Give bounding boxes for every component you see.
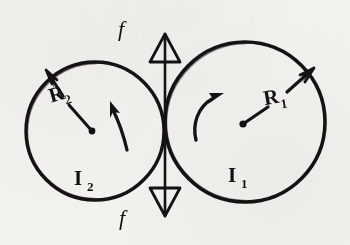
left-radius-label: R 2 <box>46 79 73 112</box>
left-radius-shaft <box>69 105 92 131</box>
right-inertia-label-sub: 1 <box>241 176 248 191</box>
left-inertia-label-main: I <box>74 166 82 190</box>
right-inertia-label: I 1 <box>228 163 248 191</box>
force-label-top: f <box>118 16 127 41</box>
left-disc-circle-wobble <box>27 64 96 199</box>
physics-sketch: f f R 2 R 1 I 2 I 1 <box>0 0 350 245</box>
right-radius-label-main: R <box>262 84 282 110</box>
left-radius-label-sub: 2 <box>63 91 73 107</box>
left-rotation-arc <box>113 110 127 150</box>
right-radius-shaft <box>243 107 268 124</box>
left-rotation-arrow <box>110 101 127 150</box>
right-rotation-arc <box>195 99 212 140</box>
contact-force-axis <box>150 34 180 216</box>
force-label-bottom: f <box>119 205 128 230</box>
diagram-canvas: f f R 2 R 1 I 2 I 1 <box>0 0 350 245</box>
left-inertia-label-sub: 2 <box>87 179 94 194</box>
right-inertia-label-main: I <box>228 163 236 187</box>
right-radius-label-sub: 1 <box>280 96 289 112</box>
right-radius-shaft-upper <box>287 76 305 92</box>
right-radius-label: R 1 <box>262 83 289 114</box>
right-rotation-arrow <box>195 93 224 140</box>
left-inertia-label: I 2 <box>74 166 94 194</box>
